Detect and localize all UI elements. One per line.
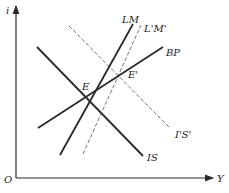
lpmp-label: L'M' <box>143 23 166 34</box>
x-axis-label: Y <box>217 173 225 184</box>
point-e-label: E <box>81 81 90 92</box>
is-lm-bp-diagram: i Y O LM L'M' BP I'S' IS E E' <box>0 0 229 193</box>
ipsp-label: I'S' <box>174 129 191 140</box>
lm-label: LM <box>121 14 140 25</box>
is-label: IS <box>146 152 158 163</box>
point-ep-label: E' <box>127 69 138 80</box>
y-axis-label: i <box>6 5 9 16</box>
bp-curve <box>38 47 163 128</box>
origin-label: O <box>4 174 12 185</box>
lpmp-curve <box>83 25 141 154</box>
bp-label: BP <box>165 47 180 58</box>
